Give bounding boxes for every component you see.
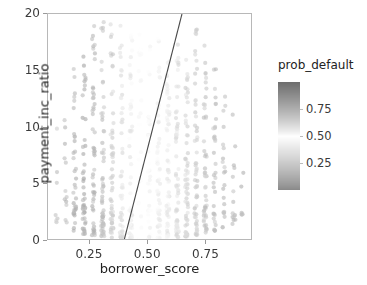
colorbar-tick-label: 0.75 [306,102,332,116]
y-tick-mark [43,13,47,14]
plot-area [47,13,252,240]
colorbar-tick-mark [300,163,303,164]
colorbar-gradient [278,82,300,190]
x-tick-label: 0.50 [134,247,161,261]
scatter-plot-figure: 0.250.500.75 05101520 borrower_score pay… [0,0,367,285]
x-tick-label: 0.25 [76,247,103,261]
x-tick-label: 0.75 [192,247,219,261]
y-axis-label: payment_inc_ratio [37,19,52,229]
legend-title: prob_default [278,58,353,72]
colorbar-tick-mark [300,136,303,137]
colorbar-tick-mark [300,109,303,110]
legend: prob_default 0.750.500.25 [275,58,367,198]
y-tick-label: 15 [7,63,40,77]
y-tick-label: 5 [7,176,40,190]
x-axis-label: borrower_score [47,261,252,276]
y-tick-label: 0 [7,233,40,247]
x-tick-mark [147,240,148,244]
x-tick-mark [89,240,90,244]
decision-boundary-line [48,14,252,240]
y-tick-mark [43,240,47,241]
y-tick-label: 20 [7,6,40,20]
colorbar-tick-label: 0.50 [306,129,332,143]
colorbar-tick-label: 0.25 [306,156,332,170]
x-tick-mark [205,240,206,244]
y-tick-label: 10 [7,120,40,134]
